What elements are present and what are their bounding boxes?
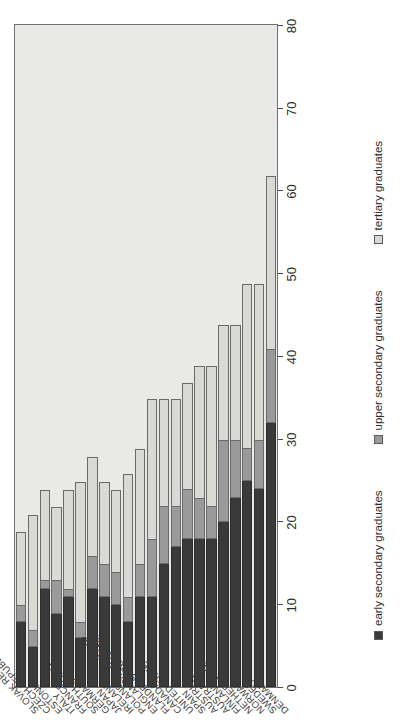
bar-segment-early-secondary-graduates xyxy=(218,522,229,688)
bar-segment-tertiary-graduates xyxy=(266,176,277,350)
bar-segment-upper-secondary-graduates xyxy=(28,630,39,647)
bar-segment-upper-secondary-graduates xyxy=(171,506,182,547)
category-label-slovak-republic: SLOVAK REPUBLIC xyxy=(15,690,41,716)
legend-label: early secondary graduates xyxy=(372,490,384,626)
bar-segment-tertiary-graduates xyxy=(99,482,110,565)
bar-segment-tertiary-graduates xyxy=(135,449,146,565)
bar-segment-tertiary-graduates xyxy=(75,482,86,623)
axis-tick xyxy=(278,25,283,26)
axis-tick-label: 70 xyxy=(284,102,299,116)
plot-area xyxy=(14,24,278,688)
bar-segment-tertiary-graduates xyxy=(28,515,39,631)
bar-segment-upper-secondary-graduates xyxy=(230,440,241,498)
category-label-canada: CANADA xyxy=(157,690,183,716)
category-label-united-states: UNITED STATES xyxy=(169,690,195,716)
bar-italy xyxy=(51,508,62,687)
category-label-france: FRANCE xyxy=(62,690,88,716)
category-label-australia: AUSTRALIA xyxy=(205,690,231,716)
bar-series-group xyxy=(15,25,277,687)
bar-denmark xyxy=(266,177,277,687)
bar-ireland xyxy=(111,491,122,687)
bar-segment-tertiary-graduates xyxy=(194,366,205,498)
category-label-norway: NORWAY xyxy=(241,690,267,716)
category-label-italy: ITALY xyxy=(50,690,76,716)
bar-segment-early-secondary-graduates xyxy=(111,604,122,687)
bar-south-korea xyxy=(75,483,86,687)
legend-label: upper secondary graduates xyxy=(372,290,384,430)
bar-segment-upper-secondary-graduates xyxy=(218,440,229,523)
category-label-poland: POLAND xyxy=(122,690,148,716)
bar-segment-upper-secondary-graduates xyxy=(206,506,217,539)
bar-segment-early-secondary-graduates xyxy=(159,563,170,687)
bar-segment-tertiary-graduates xyxy=(111,490,122,573)
bar-segment-tertiary-graduates xyxy=(16,532,27,606)
bar-segment-early-secondary-graduates xyxy=(75,637,86,687)
bar-australia xyxy=(206,367,217,687)
bar-segment-upper-secondary-graduates xyxy=(87,556,98,589)
bar-segment-upper-secondary-graduates xyxy=(51,580,62,613)
bar-segment-tertiary-graduates xyxy=(147,399,158,540)
legend-label: tertiary graduates xyxy=(372,141,384,231)
category-label-flanders-belgium: FLANDERS (BELGIUM) xyxy=(146,690,172,716)
axis-tick-label: 10 xyxy=(284,598,299,612)
axis-tick xyxy=(278,356,283,357)
bar-segment-upper-secondary-graduates xyxy=(159,506,170,564)
category-label-germany: GERMANY xyxy=(86,690,112,716)
bar-segment-tertiary-graduates xyxy=(123,474,134,598)
bar-austria xyxy=(194,367,205,687)
category-label-ireland: IRELAND xyxy=(110,690,136,716)
bar-segment-early-secondary-graduates xyxy=(194,538,205,687)
bar-estonia xyxy=(40,491,51,687)
bar-segment-tertiary-graduates xyxy=(230,325,241,441)
bar-finland xyxy=(218,326,229,687)
bar-segment-upper-secondary-graduates xyxy=(254,440,265,490)
legend-item: early secondary graduates xyxy=(372,490,384,640)
category-label-sweden: SWEDEN xyxy=(253,690,279,716)
chart-legend: early secondary graduatesupper secondary… xyxy=(372,141,384,640)
bar-segment-early-secondary-graduates xyxy=(28,646,39,687)
bar-segment-early-secondary-graduates xyxy=(51,613,62,687)
bar-segment-upper-secondary-graduates xyxy=(63,589,74,597)
legend-item: upper secondary graduates xyxy=(372,290,384,444)
bar-japan xyxy=(99,483,110,687)
category-label-estonia: ESTONIA xyxy=(38,690,64,716)
bar-segment-early-secondary-graduates xyxy=(242,480,253,687)
category-label-czech-republic: CZECH REPUBLIC xyxy=(26,690,52,716)
bar-segment-early-secondary-graduates xyxy=(16,621,27,687)
bar-poland xyxy=(123,475,134,687)
axis-tick-label: 50 xyxy=(284,267,299,281)
bar-england-n-ireland xyxy=(135,450,146,687)
category-label-finland: FINLAND xyxy=(217,690,243,716)
bar-segment-tertiary-graduates xyxy=(182,383,193,491)
bar-segment-early-secondary-graduates xyxy=(230,497,241,687)
category-label-england-n-ireland: ENGLAND/N. IRELAND xyxy=(134,690,160,716)
bar-segment-upper-secondary-graduates xyxy=(111,572,122,605)
bar-united-states xyxy=(171,400,182,687)
bar-segment-upper-secondary-graduates xyxy=(99,564,110,597)
bar-segment-tertiary-graduates xyxy=(242,284,253,450)
axis-tick-label: 40 xyxy=(284,350,299,364)
bar-slovak-republic xyxy=(16,533,27,687)
bar-segment-upper-secondary-graduates xyxy=(16,605,27,622)
bar-segment-early-secondary-graduates xyxy=(206,538,217,687)
axis-tick xyxy=(278,687,283,688)
bar-spain xyxy=(182,384,193,687)
bar-segment-early-secondary-graduates xyxy=(87,588,98,687)
bar-segment-early-secondary-graduates xyxy=(182,538,193,687)
bar-segment-upper-secondary-graduates xyxy=(182,489,193,539)
bar-segment-early-secondary-graduates xyxy=(123,621,134,687)
category-label-spain: SPAIN xyxy=(181,690,207,716)
bar-segment-upper-secondary-graduates xyxy=(75,622,86,639)
bar-segment-upper-secondary-graduates xyxy=(242,448,253,481)
axis-tick xyxy=(278,522,283,523)
bar-segment-tertiary-graduates xyxy=(254,284,265,441)
category-label-japan: JAPAN xyxy=(98,690,124,716)
bar-segment-upper-secondary-graduates xyxy=(194,498,205,539)
axis-tick-label: 0 xyxy=(284,684,299,691)
bar-segment-early-secondary-graduates xyxy=(135,596,146,687)
legend-item: tertiary graduates xyxy=(372,141,384,245)
bar-germany xyxy=(87,458,98,687)
bar-segment-upper-secondary-graduates xyxy=(135,564,146,597)
bar-flanders-belgium xyxy=(147,400,158,687)
legend-swatch-icon xyxy=(374,435,383,444)
